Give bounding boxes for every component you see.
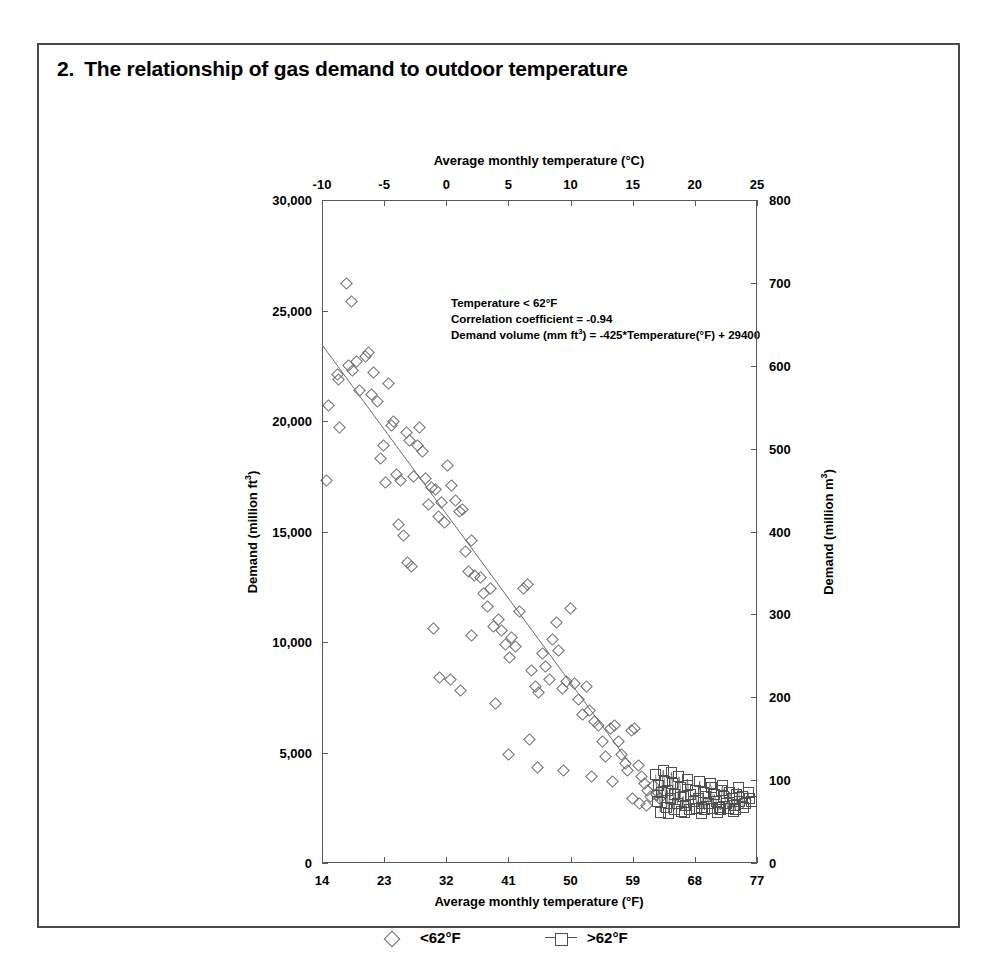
axis-tick <box>633 200 634 206</box>
axis-tick <box>322 532 328 533</box>
right-axis-title: Demand (million m3) <box>821 469 836 595</box>
data-point-square <box>705 778 716 789</box>
axis-tick <box>695 200 696 206</box>
data-point-square <box>712 807 723 818</box>
xtick-label-f: 41 <box>501 873 515 888</box>
axis-tick <box>751 366 757 367</box>
axis-tick <box>322 421 328 422</box>
data-point-square <box>728 806 739 817</box>
legend-label-below-62f: <62°F <box>420 929 461 946</box>
ytick-label-m3: 300 <box>769 607 791 622</box>
xtick-label-f: 32 <box>439 873 453 888</box>
figure-title: 2.The relationship of gas demand to outd… <box>57 57 628 81</box>
legend-entry-below-62f: <62°F <box>377 929 461 946</box>
data-point-square <box>694 776 705 787</box>
axis-tick <box>571 857 572 863</box>
xtick-label-f: 14 <box>315 873 329 888</box>
bottom-axis-title: Average monthly temperature (°F) <box>434 894 643 909</box>
axis-tick <box>322 200 328 201</box>
xtick-label-c: 0 <box>443 177 450 192</box>
data-point-square <box>682 774 693 785</box>
data-point-square <box>746 796 757 807</box>
axis-tick <box>751 780 757 781</box>
axis-tick <box>384 200 385 206</box>
xtick-label-c: 20 <box>688 177 702 192</box>
data-point-square <box>733 782 744 793</box>
ytick-label-m3: 100 <box>769 773 791 788</box>
ytick-label-ft3: 30,000 <box>272 193 312 208</box>
axis-tick <box>751 200 757 201</box>
axis-tick <box>695 857 696 863</box>
axis-tick <box>751 532 757 533</box>
axis-tick <box>751 283 757 284</box>
data-point-square <box>666 767 677 778</box>
xtick-label-f: 68 <box>688 873 702 888</box>
xtick-label-f: 59 <box>625 873 639 888</box>
left-axis-title: Demand (million ft3) <box>245 471 260 594</box>
xtick-label-c: -5 <box>378 177 390 192</box>
ytick-label-m3: 500 <box>769 441 791 456</box>
xtick-label-c: 25 <box>750 177 764 192</box>
ytick-label-m3: 800 <box>769 193 791 208</box>
square-line-marker-icon <box>544 930 578 946</box>
ytick-label-ft3: 20,000 <box>272 414 312 429</box>
xtick-label-c: 10 <box>563 177 577 192</box>
axis-tick <box>322 753 328 754</box>
xtick-label-f: 77 <box>750 873 764 888</box>
ytick-label-m3: 0 <box>769 856 776 871</box>
chart-legend: <62°F >62°F <box>322 925 757 959</box>
legend-entry-above-62f: >62°F <box>544 929 628 946</box>
axis-tick <box>757 857 758 863</box>
axis-tick <box>446 200 447 206</box>
xtick-label-c: 5 <box>505 177 512 192</box>
axis-tick <box>322 311 328 312</box>
axis-tick <box>751 614 757 615</box>
ytick-label-ft3: 0 <box>305 856 312 871</box>
diamond-marker-icon <box>377 930 411 946</box>
axis-tick <box>571 200 572 206</box>
figure-frame: 2.The relationship of gas demand to outd… <box>37 43 960 928</box>
legend-label-above-62f: >62°F <box>587 929 628 946</box>
axis-tick <box>508 857 509 863</box>
data-point-square <box>663 808 674 819</box>
ytick-label-ft3: 5,000 <box>279 745 312 760</box>
ytick-label-m3: 200 <box>769 690 791 705</box>
axis-tick <box>633 857 634 863</box>
ytick-label-m3: 700 <box>769 275 791 290</box>
plot-region <box>322 200 757 863</box>
ytick-label-m3: 400 <box>769 524 791 539</box>
axis-tick <box>384 857 385 863</box>
axis-tick <box>751 863 757 864</box>
axis-tick <box>508 200 509 206</box>
xtick-label-c: -10 <box>313 177 332 192</box>
ytick-label-ft3: 15,000 <box>272 524 312 539</box>
axis-tick <box>751 697 757 698</box>
figure-title-text: The relationship of gas demand to outdoo… <box>84 57 628 80</box>
axis-tick <box>751 449 757 450</box>
ytick-label-ft3: 10,000 <box>272 635 312 650</box>
data-point-square <box>679 807 690 818</box>
ytick-label-m3: 600 <box>769 358 791 373</box>
xtick-label-f: 23 <box>377 873 391 888</box>
ytick-label-ft3: 25,000 <box>272 303 312 318</box>
top-axis-title: Average monthly temperature (°C) <box>434 153 645 168</box>
data-point-square <box>696 808 707 819</box>
axis-tick <box>757 200 758 206</box>
axis-tick <box>446 857 447 863</box>
axis-tick <box>322 642 328 643</box>
axis-tick <box>322 863 328 864</box>
figure-number: 2. <box>57 57 74 80</box>
xtick-label-f: 50 <box>563 873 577 888</box>
xtick-label-c: 15 <box>625 177 639 192</box>
data-point-square <box>717 780 728 791</box>
